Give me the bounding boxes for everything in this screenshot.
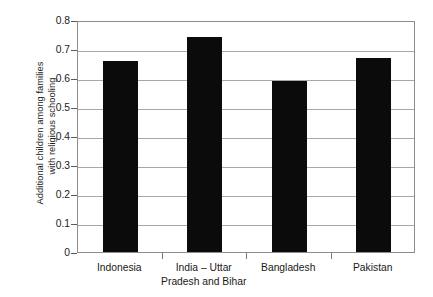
x-tick-mark	[162, 253, 163, 259]
plot-area	[77, 21, 415, 253]
bar-series	[78, 22, 414, 252]
x-category-label-line: Pradesh and Bihar	[150, 275, 259, 289]
y-tick-label: 0	[30, 248, 70, 258]
y-tick-label: 0.6	[30, 74, 70, 84]
bar	[356, 58, 391, 252]
bar-chart-figure: Additional children among families with …	[0, 0, 433, 297]
bar	[187, 37, 222, 252]
y-tick-label: 0.7	[30, 45, 70, 55]
bar	[103, 61, 138, 252]
x-tick-mark	[246, 253, 247, 259]
x-category-label: Pakistan	[319, 261, 428, 275]
y-tick-label: 0.8	[30, 16, 70, 26]
y-tick-label: 0.4	[30, 132, 70, 142]
y-tick-label: 0.2	[30, 190, 70, 200]
y-tick-label: 0.5	[30, 103, 70, 113]
y-tick-mark	[71, 253, 77, 254]
x-tick-mark	[331, 253, 332, 259]
bar	[272, 81, 307, 252]
y-tick-label: 0.3	[30, 161, 70, 171]
x-category-label-line: Pakistan	[319, 261, 428, 275]
y-tick-label: 0.1	[30, 219, 70, 229]
